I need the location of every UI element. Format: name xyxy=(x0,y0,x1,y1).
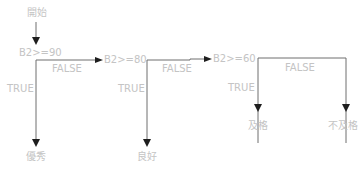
arrow-down-icon xyxy=(143,139,151,147)
outcome-pass: 及格 xyxy=(248,119,268,131)
condition-1-true-label: TRUE xyxy=(6,83,34,94)
condition-3-false-label: FALSE xyxy=(285,62,315,73)
arrow-right-icon xyxy=(95,57,103,63)
arrow-down-icon xyxy=(254,104,262,112)
condition-1: B2>=90 xyxy=(19,47,62,58)
outcome-fail: 不及格 xyxy=(328,119,358,131)
condition-3-true-label: TRUE xyxy=(227,82,255,93)
condition-2-false-label: FALSE xyxy=(162,63,192,74)
outcome-excellent: 優秀 xyxy=(26,150,46,162)
arrow-right-icon xyxy=(204,56,212,62)
flowchart-svg: 開始 B2>=90 FALSE TRUE B2>=80 FALSE TRUE B… xyxy=(0,0,363,184)
condition-1-false-label: FALSE xyxy=(52,63,82,74)
arrow-down-icon xyxy=(32,37,40,45)
condition-2-true-label: TRUE xyxy=(117,83,145,94)
condition-2: B2>=80 xyxy=(104,54,147,65)
flowchart-canvas: 開始 B2>=90 FALSE TRUE B2>=80 FALSE TRUE B… xyxy=(0,0,363,184)
outcome-good: 良好 xyxy=(137,150,157,162)
start-node: 開始 xyxy=(27,6,47,18)
condition-3: B2>=60 xyxy=(213,53,256,64)
arrow-down-icon xyxy=(342,104,350,112)
arrow-down-icon xyxy=(32,139,40,147)
